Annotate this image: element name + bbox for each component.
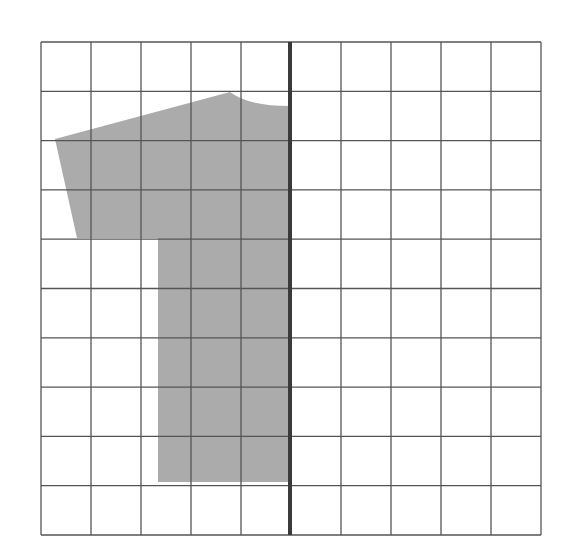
grid-diagram bbox=[0, 0, 567, 555]
shaded-shape bbox=[55, 92, 290, 482]
